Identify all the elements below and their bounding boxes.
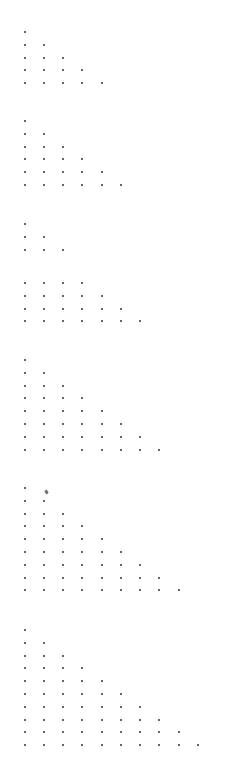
dot: [24, 184, 26, 186]
dot: [120, 719, 122, 721]
dot: [139, 449, 141, 451]
dot: [43, 564, 45, 566]
dot: [81, 82, 83, 84]
dot: [62, 538, 64, 540]
dot: [81, 551, 83, 553]
dot: [120, 308, 122, 310]
dot: [81, 397, 83, 399]
dot: [43, 184, 45, 186]
dot: [120, 320, 122, 322]
dot: [24, 31, 26, 33]
dot: [139, 564, 141, 566]
dot: [24, 525, 26, 527]
dot: [43, 372, 45, 374]
dot: [101, 706, 103, 708]
dot: [24, 577, 26, 579]
dot: [24, 629, 26, 631]
dot: [158, 744, 160, 746]
dot: [81, 436, 83, 438]
dot: [120, 551, 122, 553]
dot: [81, 449, 83, 451]
dot: [62, 513, 64, 515]
dot: [24, 423, 26, 425]
dot: [158, 589, 160, 591]
dot: [178, 744, 180, 746]
dot: [139, 744, 141, 746]
dot: [43, 449, 45, 451]
dot: [101, 82, 103, 84]
dot: [24, 295, 26, 297]
dot: [81, 184, 83, 186]
dot: [24, 171, 26, 173]
dot: [24, 397, 26, 399]
dot: [139, 577, 141, 579]
dot: [43, 410, 45, 412]
dot: [158, 719, 160, 721]
dot: [178, 589, 180, 591]
dot: [24, 133, 26, 135]
dot: [139, 436, 141, 438]
dot: [139, 719, 141, 721]
dot: [120, 184, 122, 186]
dot: [62, 706, 64, 708]
dot: [24, 236, 26, 238]
dot: [81, 308, 83, 310]
dot: [101, 693, 103, 695]
dot: [24, 158, 26, 160]
dot: [139, 731, 141, 733]
dot: [43, 249, 45, 251]
dot: [101, 731, 103, 733]
dot: [62, 667, 64, 669]
dot: [62, 551, 64, 553]
dot: [43, 146, 45, 148]
dot: [120, 731, 122, 733]
dot: [24, 538, 26, 540]
dot: [101, 184, 103, 186]
dot: [120, 564, 122, 566]
dot: [81, 158, 83, 160]
dot: [101, 171, 103, 173]
dot: [101, 719, 103, 721]
dot: [120, 436, 122, 438]
dot: [101, 436, 103, 438]
dot: [62, 525, 64, 527]
dot: [43, 719, 45, 721]
dot: [43, 158, 45, 160]
dot: [43, 538, 45, 540]
dot: [24, 744, 26, 746]
dot: [43, 731, 45, 733]
dot: [101, 564, 103, 566]
dot: [43, 236, 45, 238]
dot: [43, 744, 45, 746]
dot: [24, 410, 26, 412]
dot: [62, 744, 64, 746]
dot: [24, 385, 26, 387]
dot: [62, 410, 64, 412]
dot: [43, 133, 45, 135]
dot: [62, 655, 64, 657]
dot: [62, 397, 64, 399]
dot: [101, 308, 103, 310]
dot: [120, 589, 122, 591]
dot: [62, 731, 64, 733]
dot: [81, 693, 83, 695]
dot: [62, 171, 64, 173]
dot: [62, 680, 64, 682]
dot: [43, 655, 45, 657]
dot: [24, 667, 26, 669]
dot: [62, 82, 64, 84]
dot: [24, 589, 26, 591]
dot: [43, 436, 45, 438]
dot: [81, 719, 83, 721]
dot: [43, 589, 45, 591]
dot: [24, 359, 26, 361]
dot: [139, 320, 141, 322]
dot: [178, 731, 180, 733]
dot: [158, 731, 160, 733]
dot: [81, 564, 83, 566]
dot: [81, 538, 83, 540]
dot: [101, 589, 103, 591]
dot: [139, 589, 141, 591]
dot: [120, 577, 122, 579]
dot: [81, 706, 83, 708]
